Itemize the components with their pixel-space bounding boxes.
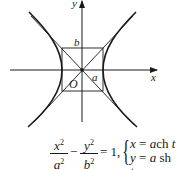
fraction-bar [80, 153, 98, 154]
a-label: a [92, 71, 98, 83]
origin-point [80, 68, 84, 72]
b-label: b [74, 36, 80, 48]
exponent: 2 [60, 138, 64, 147]
numerator: y2 [80, 136, 98, 152]
hyperbola-diagram: y x b a O [0, 0, 177, 134]
denominator: b2 [80, 155, 98, 170]
var-t: t [130, 164, 134, 170]
parametric-equations: x = ach t y = a sh t [130, 137, 177, 170]
equals: = [136, 150, 150, 165]
param-line-x: x = ach t [130, 137, 177, 151]
exponent: 2 [90, 138, 94, 147]
equals-one: = 1, [100, 144, 120, 160]
minus-sign: − [70, 144, 77, 160]
denominator: a2 [50, 155, 68, 170]
x-axis-label: x [150, 71, 156, 83]
param-line-y: y = a sh t [130, 151, 177, 170]
fraction-x2-over-a2: x2 a2 [50, 136, 68, 170]
left-brace: { [122, 135, 130, 165]
exponent: 2 [90, 157, 94, 166]
equals: = [136, 136, 150, 151]
fn-sh: sh [156, 150, 171, 165]
fraction-y2-over-b2: y2 b2 [80, 136, 98, 170]
fn-ch: ch [156, 136, 168, 151]
numerator: x2 [50, 136, 68, 152]
hyperbola-equation: x2 a2 − y2 b2 = 1, { x = ach t y = a sh … [0, 134, 177, 170]
origin-label: O [69, 77, 78, 91]
var-t: t [168, 136, 175, 151]
fraction-bar [50, 153, 68, 154]
exponent: 2 [60, 157, 64, 166]
y-axis-label: y [71, 0, 77, 9]
